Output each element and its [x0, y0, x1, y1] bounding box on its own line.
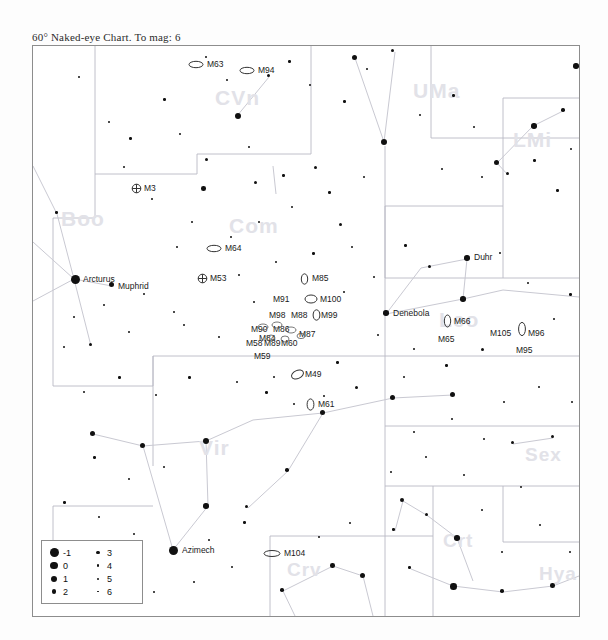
star: [408, 566, 411, 569]
constellation-label-sex: Sex: [525, 444, 562, 466]
star: [63, 346, 65, 348]
sky-chart-canvas[interactable]: CVn UMa LMi Boo Com Leo Vir Sex Crt Crv …: [32, 45, 580, 617]
star: [538, 386, 540, 388]
star: [483, 438, 485, 440]
constellation-label-crv: Crv: [287, 559, 322, 581]
legend-dot-icon: [90, 591, 106, 592]
star: [208, 539, 210, 541]
dso-label-m99: M99: [321, 310, 338, 320]
star: [539, 524, 541, 526]
dso-label-m61: M61: [318, 399, 335, 409]
galaxy-symbol-m49[interactable]: [290, 369, 305, 380]
star: [425, 456, 427, 458]
dso-label-m91: M91: [273, 294, 290, 304]
star: [573, 63, 579, 69]
legend-left-column: -1 0 1 2: [46, 546, 71, 598]
star: [236, 381, 238, 383]
globular-symbol-m53[interactable]: [197, 273, 208, 284]
star: [352, 55, 357, 60]
star: [273, 376, 275, 378]
star: [108, 121, 110, 123]
legend-row: -1: [46, 546, 71, 559]
star: [481, 509, 483, 511]
star: [561, 108, 565, 112]
legend-right-column: 3 4 5 6: [90, 546, 112, 598]
star: [390, 395, 395, 400]
star: [451, 418, 453, 420]
star-label-arcturus: Arcturus: [83, 274, 115, 284]
legend-row: 3: [90, 546, 112, 559]
star: [441, 168, 443, 170]
star: [63, 501, 66, 504]
star: [454, 535, 460, 541]
page-title: 60° Naked-eye Chart. To mag: 6: [32, 31, 181, 43]
star: [235, 113, 241, 119]
galaxy-symbol-cluster-virgo: [251, 318, 321, 348]
globular-symbol-m3[interactable]: [131, 183, 142, 194]
dso-label-m64: M64: [225, 243, 242, 253]
galaxy-symbol-m100[interactable]: [304, 294, 318, 304]
dso-label-m63: M63: [207, 59, 224, 69]
galaxy-symbol-m61[interactable]: [305, 398, 316, 411]
dso-label-m100: M100: [320, 294, 341, 304]
star: [293, 403, 295, 405]
star: [551, 435, 554, 438]
star: [128, 478, 130, 480]
star: [383, 310, 389, 316]
star: [363, 176, 365, 178]
star: [463, 474, 465, 476]
legend-label: 4: [107, 561, 112, 571]
star: [89, 343, 92, 346]
star: [188, 376, 191, 379]
star: [450, 392, 455, 397]
star: [553, 318, 555, 320]
legend-dot-icon: [90, 564, 106, 567]
star: [419, 114, 421, 116]
legend-row: 2: [46, 585, 71, 598]
legend-dot-icon: [46, 562, 62, 570]
star: [494, 160, 499, 165]
galaxy-symbol-m85[interactable]: [299, 273, 310, 285]
dso-label-m59: M59: [254, 351, 271, 361]
star: [569, 293, 572, 296]
star: [355, 386, 358, 389]
star: [520, 486, 522, 488]
star: [265, 391, 268, 394]
galaxy-symbol-m63[interactable]: [188, 60, 204, 69]
star: [413, 431, 415, 433]
star: [205, 56, 207, 58]
star: [275, 261, 277, 263]
star: [481, 176, 483, 178]
star: [349, 522, 351, 524]
star: [390, 471, 392, 473]
galaxy-symbol-m96[interactable]: [516, 321, 528, 337]
galaxy-symbol-m66[interactable]: [442, 314, 453, 328]
star: [404, 244, 407, 247]
legend-label: 2: [63, 587, 68, 597]
star: [176, 246, 178, 248]
galaxy-symbol-m64[interactable]: [206, 244, 222, 253]
star: [140, 443, 145, 448]
legend-row: 4: [90, 559, 112, 572]
galaxy-symbol-m94[interactable]: [239, 66, 255, 75]
dso-label-m104: M104: [284, 548, 305, 558]
star: [163, 466, 165, 468]
star: [90, 431, 95, 436]
star: [450, 583, 457, 590]
star: [351, 246, 353, 248]
dso-label-m65: M65: [438, 334, 455, 344]
star: [323, 395, 325, 397]
star: [328, 191, 331, 194]
legend-row: 1: [46, 572, 71, 585]
star-label-azimech: Azimech: [182, 545, 215, 555]
galaxy-symbol-m104[interactable]: [263, 549, 281, 558]
star: [511, 441, 514, 444]
dso-label-m53: M53: [210, 273, 227, 283]
star-label-muphrid: Muphrid: [118, 281, 149, 291]
star: [314, 166, 317, 169]
star: [128, 331, 130, 333]
star: [179, 133, 181, 135]
star: [452, 94, 455, 97]
star: [501, 551, 503, 553]
constellation-label-boo: Boo: [61, 207, 105, 231]
